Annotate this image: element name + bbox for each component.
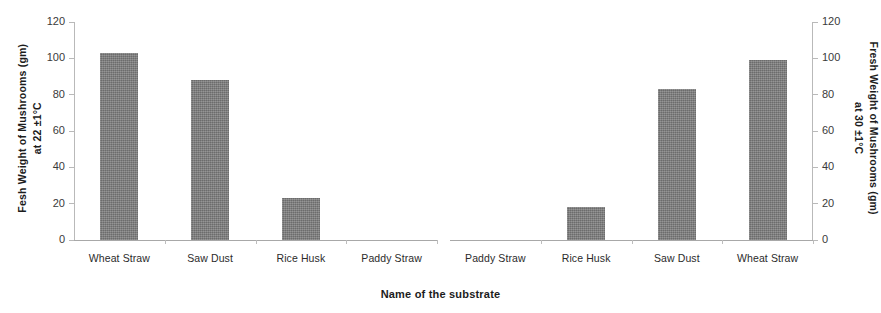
y-axis-tick-label: 100 [47, 52, 65, 63]
y-axis-tick [813, 167, 818, 168]
y-axis-tick-label: 120 [822, 16, 840, 27]
right-y-axis-title-line1: Fresh Weight of Mushrooms (gm) [868, 42, 880, 215]
y-axis-tick [69, 203, 74, 204]
x-axis-tick [722, 240, 723, 244]
y-axis-tick-label: 40 [53, 161, 65, 172]
y-axis-tick-label: 20 [822, 198, 834, 209]
x-axis-tick [813, 240, 814, 244]
y-axis-tick [69, 94, 74, 95]
x-axis-tick [256, 240, 257, 244]
y-axis-tick [69, 131, 74, 132]
y-axis-tick [813, 58, 818, 59]
bar [100, 53, 138, 240]
y-axis-tick [69, 58, 74, 59]
right-plot-panel: 020406080100120 [450, 22, 813, 240]
bar [191, 80, 229, 240]
y-axis-tick-label: 0 [59, 234, 65, 245]
x-axis-category-label: Saw Dust [654, 252, 700, 264]
bar [282, 198, 320, 240]
y-axis-tick-label: 0 [822, 234, 828, 245]
x-axis-category-label: Paddy Straw [465, 252, 526, 264]
right-y-axis-title: Fresh Weight of Mushrooms (gm) at 30 ±1°… [851, 38, 881, 218]
x-axis-category-label: Wheat Straw [737, 252, 798, 264]
y-axis-tick-label: 80 [53, 89, 65, 100]
x-axis-category-label: Paddy Straw [361, 252, 422, 264]
left-y-axis-title: Fesh Weight of Mushrooms (gm) at 22 ±1°C [15, 38, 45, 218]
x-axis-category-label: Saw Dust [187, 252, 233, 264]
x-axis-category-label: Wheat Straw [89, 252, 150, 264]
y-axis-tick [813, 22, 818, 23]
y-axis-tick [69, 167, 74, 168]
x-axis-tick [632, 240, 633, 244]
x-axis-title: Name of the substrate [0, 288, 881, 300]
y-axis-tick-label: 60 [822, 125, 834, 136]
y-axis-tick [69, 240, 74, 241]
right-y-axis-title-line2: at 30 ±1°C [851, 38, 866, 218]
x-axis-tick [437, 240, 438, 244]
chart-figure: Fesh Weight of Mushrooms (gm) at 22 ±1°C… [0, 0, 881, 313]
y-axis-tick-label: 20 [53, 198, 65, 209]
left-y-axis-spine [74, 22, 75, 240]
y-axis-tick [813, 94, 818, 95]
bar [749, 60, 787, 240]
x-axis-category-label: Rice Husk [562, 252, 611, 264]
left-y-axis-title-line2: at 22 ±1°C [30, 38, 45, 218]
y-axis-tick [813, 131, 818, 132]
y-axis-tick-label: 100 [822, 52, 840, 63]
y-axis-tick-label: 40 [822, 161, 834, 172]
y-axis-tick-label: 60 [53, 125, 65, 136]
y-axis-tick-label: 80 [822, 89, 834, 100]
left-plot-panel: 020406080100120 [74, 22, 437, 240]
y-axis-tick [813, 203, 818, 204]
x-axis-tick [165, 240, 166, 244]
x-axis-tick [541, 240, 542, 244]
left-y-axis-title-line1: Fesh Weight of Mushrooms (gm) [16, 44, 28, 213]
bar [658, 89, 696, 240]
bar [567, 207, 605, 240]
y-axis-tick-label: 120 [47, 16, 65, 27]
x-axis-tick [346, 240, 347, 244]
x-axis-category-label: Rice Husk [277, 252, 326, 264]
y-axis-tick [69, 22, 74, 23]
